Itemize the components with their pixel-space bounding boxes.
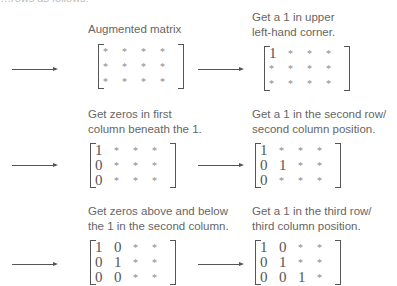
matrix-cell: * bbox=[141, 46, 160, 57]
matrix-cell: * bbox=[307, 48, 326, 59]
matrix-cell: * bbox=[317, 272, 336, 283]
matrix-cell: * bbox=[307, 63, 326, 74]
matrix-cell: * bbox=[288, 48, 307, 59]
matrix-cell: * bbox=[152, 272, 171, 283]
matrix-cell: * bbox=[317, 160, 336, 171]
matrix-cell: * bbox=[133, 175, 152, 186]
matrix-cell: * bbox=[141, 61, 160, 72]
matrix-cell: * bbox=[298, 175, 317, 186]
matrix-cell: * bbox=[298, 145, 317, 156]
matrix-cell: * bbox=[133, 272, 152, 283]
matrix-cell: * bbox=[288, 78, 307, 89]
matrix-cell: * bbox=[133, 242, 152, 253]
matrix-cell: * bbox=[133, 257, 152, 268]
matrix-cell: 1 bbox=[279, 157, 298, 174]
matrix-cell: * bbox=[317, 145, 336, 156]
matrix-cell: * bbox=[160, 46, 179, 57]
matrix-cell: * bbox=[307, 78, 326, 89]
caption-line: second column position. bbox=[252, 122, 386, 137]
matrix-cell: * bbox=[133, 160, 152, 171]
matrix-cell: 0 bbox=[95, 269, 114, 286]
step-caption: Get zeros above and below the 1 in the s… bbox=[88, 204, 229, 234]
step-caption: Get zeros in first column beneath the 1. bbox=[88, 107, 202, 137]
matrix-cell: * bbox=[317, 257, 336, 268]
matrix: 10** 01** 001* bbox=[255, 240, 341, 285]
matrix-cell: 0 bbox=[279, 269, 298, 286]
matrix-cell: * bbox=[298, 257, 317, 268]
matrix-cell: * bbox=[114, 145, 133, 156]
matrix-cell: * bbox=[298, 160, 317, 171]
matrix-cell: * bbox=[122, 61, 141, 72]
step-caption: Get a 1 in upper left-hand corner. bbox=[252, 10, 335, 40]
matrix: 1*** **** **** bbox=[264, 46, 350, 91]
matrix-cell: 0 bbox=[114, 269, 133, 286]
right-arrow-icon bbox=[12, 165, 56, 166]
matrix-cell: * bbox=[133, 145, 152, 156]
matrix-cell: * bbox=[103, 46, 122, 57]
matrix-cell: * bbox=[269, 78, 288, 89]
caption-line: Augmented matrix bbox=[88, 22, 181, 37]
matrix-cell: * bbox=[160, 61, 179, 72]
matrix-cell: * bbox=[103, 76, 122, 87]
step-caption: Get a 1 in the second row/ second column… bbox=[252, 107, 386, 137]
matrix: 1*** 0*** 0*** bbox=[90, 143, 176, 188]
matrix-cell: * bbox=[317, 242, 336, 253]
matrix-cell: * bbox=[152, 175, 171, 186]
right-arrow-icon bbox=[198, 165, 242, 166]
right-arrow-icon bbox=[198, 264, 242, 265]
matrix-cell: * bbox=[288, 63, 307, 74]
matrix-cell: * bbox=[152, 160, 171, 171]
caption-line: Get a 1 in upper bbox=[252, 10, 335, 25]
caption-line: third column position. bbox=[252, 219, 372, 234]
matrix-cell: * bbox=[160, 76, 179, 87]
matrix-cell: * bbox=[269, 63, 288, 74]
caption-line: the 1 in the second column. bbox=[88, 219, 229, 234]
right-arrow-icon bbox=[198, 69, 242, 70]
matrix-cell: * bbox=[141, 76, 160, 87]
matrix-cell: 1 bbox=[269, 45, 288, 62]
caption-line: column beneath the 1. bbox=[88, 122, 202, 137]
step-caption: Get a 1 in the third row/ third column p… bbox=[252, 204, 372, 234]
matrix-cell: * bbox=[152, 242, 171, 253]
caption-line: Get zeros in first bbox=[88, 107, 202, 122]
matrix-cell: * bbox=[326, 48, 345, 59]
caption-line: Get a 1 in the third row/ bbox=[252, 204, 372, 219]
right-arrow-icon bbox=[12, 69, 56, 70]
matrix-cell: * bbox=[114, 160, 133, 171]
matrix-cell: 0 bbox=[95, 172, 114, 189]
matrix-cell: * bbox=[152, 145, 171, 156]
caption-line: Get zeros above and below bbox=[88, 204, 229, 219]
matrix-cell: * bbox=[122, 46, 141, 57]
matrix-cell: * bbox=[279, 145, 298, 156]
clipped-intro-text: …rows as follows: bbox=[0, 0, 89, 4]
caption-line: Get a 1 in the second row/ bbox=[252, 107, 386, 122]
matrix: **** **** **** bbox=[98, 44, 184, 89]
matrix-cell: * bbox=[279, 175, 298, 186]
matrix-cell: * bbox=[152, 257, 171, 268]
matrix: 10** 01** 00** bbox=[90, 240, 176, 285]
step-caption: Augmented matrix bbox=[88, 22, 181, 37]
matrix-cell: * bbox=[317, 175, 336, 186]
matrix-cell: * bbox=[326, 78, 345, 89]
matrix-cell: * bbox=[103, 61, 122, 72]
matrix-cell: 0 bbox=[260, 269, 279, 286]
matrix-cell: * bbox=[122, 76, 141, 87]
matrix-cell: * bbox=[298, 242, 317, 253]
matrix-cell: * bbox=[326, 63, 345, 74]
matrix-cell: 1 bbox=[298, 269, 317, 286]
right-arrow-icon bbox=[12, 264, 56, 265]
matrix: 1*** 01** 0*** bbox=[255, 143, 341, 188]
matrix-cell: 0 bbox=[260, 172, 279, 189]
caption-line: left-hand corner. bbox=[252, 25, 335, 40]
matrix-cell: * bbox=[114, 175, 133, 186]
